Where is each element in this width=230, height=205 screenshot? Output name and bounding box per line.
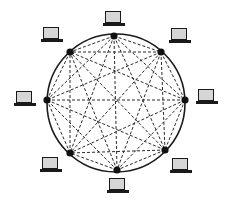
laptop-screen xyxy=(43,27,59,39)
link-top-bottom-right xyxy=(114,36,165,150)
node-top-left xyxy=(66,48,73,55)
laptop-icon xyxy=(169,28,191,45)
link-right-top-left xyxy=(70,52,185,100)
link-left-top-left xyxy=(47,52,70,100)
laptop-icon xyxy=(170,158,192,175)
node-bottom xyxy=(113,166,120,173)
link-top-right-bottom xyxy=(117,52,161,170)
node-left xyxy=(43,96,50,103)
node-top-right xyxy=(157,48,164,55)
laptop-base xyxy=(107,190,129,193)
laptop-icon xyxy=(14,91,36,108)
link-top-bottom xyxy=(114,36,117,170)
laptop-base xyxy=(41,39,63,42)
laptop-base xyxy=(170,170,192,173)
laptop-screen xyxy=(105,11,121,23)
laptop-icon xyxy=(196,89,218,106)
link-bottom-right-bottom-left xyxy=(70,150,165,153)
laptop-screen xyxy=(16,91,32,103)
laptop-screen xyxy=(171,28,187,40)
laptop-screen xyxy=(198,89,214,101)
node-bottom-left xyxy=(66,149,73,156)
laptop-base xyxy=(14,103,36,106)
link-top-right-bottom-left xyxy=(70,52,161,153)
node-top xyxy=(110,32,117,39)
node-bottom-right xyxy=(161,146,168,153)
node-right xyxy=(181,96,188,103)
laptop-base xyxy=(169,40,191,43)
laptop-base xyxy=(196,101,218,104)
link-bottom-right-left xyxy=(47,100,165,150)
laptop-base xyxy=(103,23,125,26)
link-top-right-right xyxy=(161,52,185,100)
laptop-icon xyxy=(103,11,125,28)
link-top-right-left xyxy=(47,52,161,100)
laptop-icon xyxy=(41,27,63,44)
link-top-top-right xyxy=(114,36,161,52)
link-top-right xyxy=(114,36,185,100)
laptop-screen xyxy=(109,178,125,190)
laptop-screen xyxy=(172,158,188,170)
link-top-right-bottom-right xyxy=(161,52,165,150)
laptop-icon xyxy=(107,178,129,195)
laptop-icon xyxy=(40,157,62,174)
laptop-screen xyxy=(42,157,58,169)
laptop-base xyxy=(40,169,62,172)
